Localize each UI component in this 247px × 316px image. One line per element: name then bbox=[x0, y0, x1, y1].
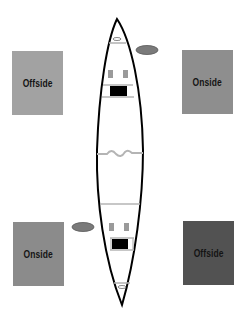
stern-seat bbox=[112, 239, 128, 249]
bow-seat bbox=[110, 86, 127, 96]
stern-rib-right bbox=[124, 223, 129, 231]
stern-rib-left bbox=[109, 223, 114, 231]
canoe-hull bbox=[97, 19, 143, 305]
offside-box-bow: Offside bbox=[12, 51, 63, 115]
stern-paddle-blade bbox=[72, 223, 94, 232]
offside-label: Offside bbox=[23, 78, 53, 89]
onside-label: Onside bbox=[193, 77, 222, 88]
onside-label: Onside bbox=[24, 249, 53, 260]
bow-rib-right bbox=[123, 70, 128, 78]
onside-box-bow: Onside bbox=[182, 50, 233, 114]
offside-box-stern: Offside bbox=[183, 221, 234, 285]
onside-box-stern: Onside bbox=[13, 222, 64, 286]
offside-label: Offside bbox=[194, 248, 224, 259]
bow-rib-left bbox=[108, 70, 113, 78]
bow-paddle-blade bbox=[136, 46, 158, 55]
